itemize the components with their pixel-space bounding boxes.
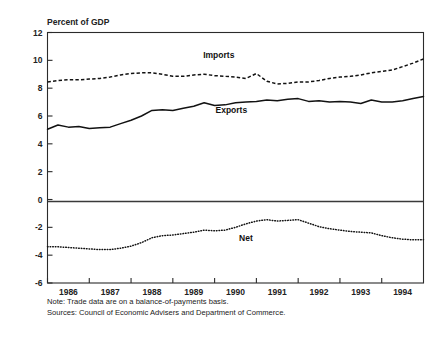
y-tick-label: 2 [38,167,43,177]
trade-share-chart: Percent of GDP 121086420-2-4-6 198619871… [0,0,443,337]
x-tick-label: 1994 [393,287,412,297]
series-label-imports: Imports [203,50,234,60]
series-label-exports: Exports [215,105,247,115]
y-tick-label: -4 [35,250,43,260]
y-tick-label: 12 [33,28,43,38]
y-tick-label: 6 [38,111,43,121]
y-tick-label: 4 [38,139,43,149]
x-tick-label: 1993 [351,287,370,297]
x-tick-label: 1988 [142,287,161,297]
x-tick-label: 1987 [101,287,120,297]
y-tick-label: 0 [38,195,43,205]
x-axis-tick-labels: 198619871988198919901991199219931994 [59,287,412,297]
y-tick-label: -2 [35,222,43,232]
y-axis-title: Percent of GDP [47,17,110,27]
y-tick-label: -6 [35,278,43,288]
x-tick-label: 1991 [268,287,287,297]
note-line: Note: Trade data are on a balance-of-pay… [47,297,229,306]
y-tick-label: 8 [38,83,43,93]
x-tick-label: 1992 [310,287,329,297]
x-tick-label: 1989 [184,287,203,297]
sources-line: Sources: Council of Economic Advisers an… [47,308,285,317]
x-tick-label: 1986 [59,287,78,297]
y-tick-label: 10 [33,55,43,65]
x-tick-label: 1990 [226,287,245,297]
series-label-net: Net [239,233,253,243]
